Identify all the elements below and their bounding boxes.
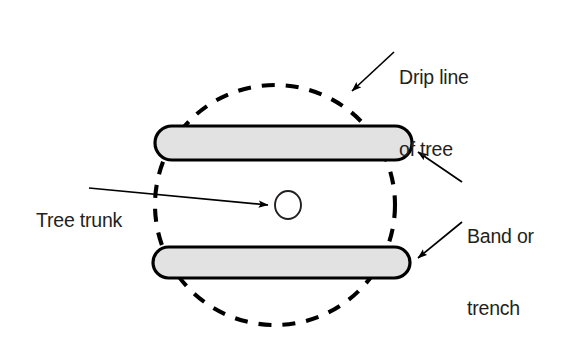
band-trench-leader-lower: [418, 222, 462, 258]
band-or-trench-upper: [155, 126, 412, 160]
drip-line-label-line1: Drip line: [399, 65, 469, 89]
drip-line-leader: [352, 52, 394, 91]
tree-trunk-circle: [275, 191, 301, 219]
tree-trunk-label: Tree trunk: [36, 160, 122, 280]
diagram-canvas: Drip line of tree Band or trench Tree tr…: [0, 0, 571, 355]
band-or-trench-label-line1: Band or: [467, 224, 534, 248]
drip-line-label: Drip line of tree: [399, 17, 469, 209]
tree-trunk-label-line1: Tree trunk: [36, 208, 122, 232]
band-or-trench-lower: [153, 247, 410, 278]
band-or-trench-label: Band or trench: [467, 176, 534, 355]
drip-line-label-line2: of tree: [399, 137, 469, 161]
band-or-trench-label-line2: trench: [467, 296, 534, 320]
